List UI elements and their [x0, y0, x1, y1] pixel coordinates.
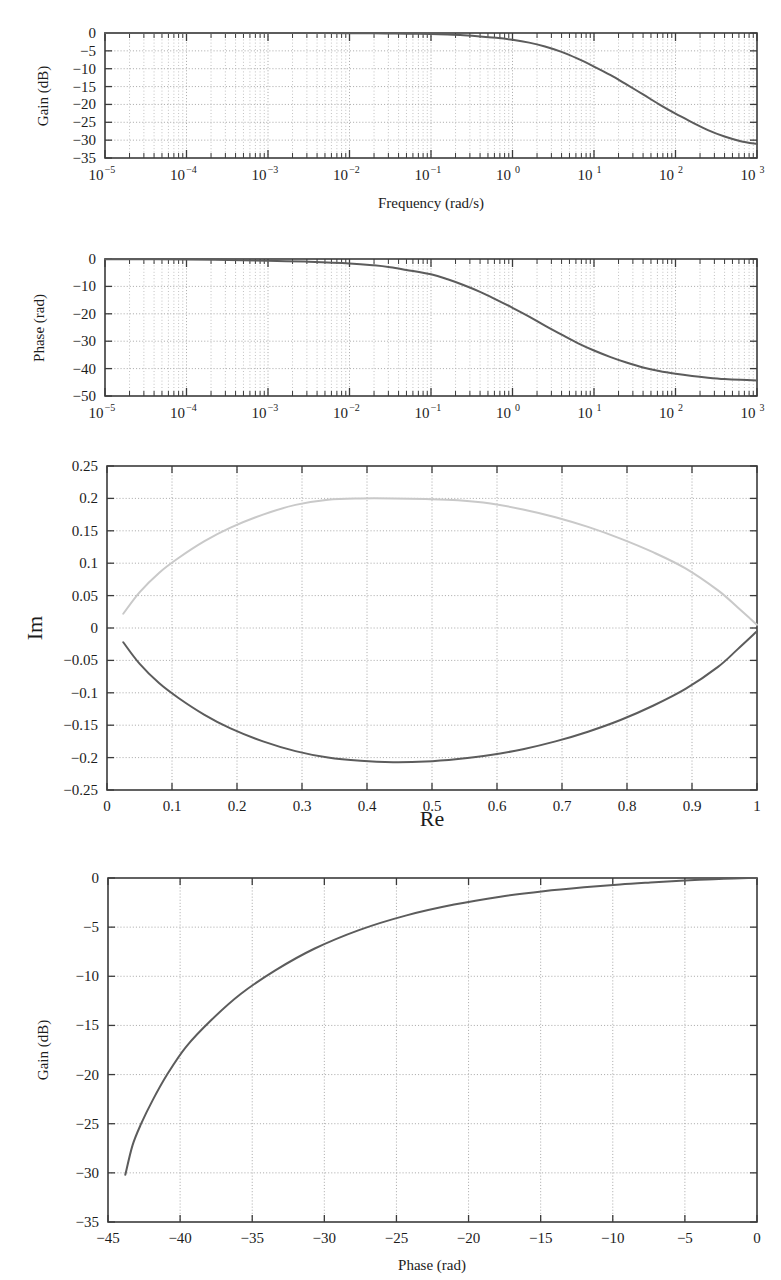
x-tick-exponent: −1	[431, 164, 442, 175]
y-tick-label: 0.25	[72, 458, 98, 474]
y-tick-label: −0.15	[63, 717, 98, 733]
x-tick-mantissa: 10	[578, 405, 593, 421]
nyquist-ytick-labels: 0.250.20.150.10.050−0.05−0.1−0.15−0.2−0.…	[63, 458, 98, 798]
x-tick-mantissa: 10	[89, 167, 104, 183]
panel-bode-magnitude: 0−5−10−15−20−25−30−35 10−510−410−310−210…	[0, 0, 781, 232]
y-tick-label: 0.2	[79, 490, 98, 506]
x-tick-label: 103	[741, 402, 765, 421]
y-tick-label: −20	[76, 1067, 99, 1083]
x-tick-label: 0.8	[618, 798, 637, 814]
x-tick-label: 10−3	[252, 402, 279, 421]
x-tick-mantissa: 10	[415, 405, 430, 421]
x-tick-label: 0.4	[358, 798, 377, 814]
nyquist-grid	[107, 466, 757, 790]
x-tick-exponent: 1	[597, 164, 602, 175]
x-tick-label: 0.2	[228, 798, 247, 814]
bode-phase-ytick-labels: 0−10−20−30−40−50	[73, 251, 96, 404]
x-tick-label: 0.3	[293, 798, 312, 814]
bode-phase-xtick-labels: 10−510−410−310−210−1100101102103	[89, 402, 765, 421]
y-tick-label: 0.15	[72, 523, 98, 539]
nyquist-upper-mirror-curve	[123, 498, 757, 624]
y-tick-label: −25	[76, 1116, 99, 1132]
panel-nyquist: 0.250.20.150.10.050−0.05−0.1−0.15−0.2−0.…	[0, 444, 781, 830]
y-tick-label: −5	[80, 43, 96, 59]
x-tick-label: 10−2	[333, 402, 360, 421]
nyquist-ylabel: Im	[22, 616, 47, 640]
y-tick-label: −30	[76, 1165, 99, 1181]
bode-phase-ylabel: Phase (rad)	[31, 294, 48, 362]
x-tick-label: 0.7	[553, 798, 572, 814]
x-tick-mantissa: 10	[170, 167, 185, 183]
x-tick-label: 10−2	[333, 164, 360, 183]
y-tick-label: −15	[73, 79, 96, 95]
nichols-svg: 0−5−10−15−20−25−30−35 −45−40−35−30−25−20…	[0, 830, 781, 1280]
x-tick-mantissa: 10	[333, 167, 348, 183]
x-tick-label: −5	[677, 1230, 693, 1246]
x-tick-exponent: 0	[515, 164, 520, 175]
y-tick-label: −10	[73, 61, 96, 77]
bode-magnitude-ylabel: Gain (dB)	[35, 66, 52, 126]
x-tick-exponent: 3	[760, 402, 765, 413]
y-tick-label: 0	[92, 870, 100, 886]
y-tick-label: −0.1	[71, 685, 98, 701]
y-tick-label: −0.25	[63, 782, 98, 798]
x-tick-mantissa: 10	[659, 167, 674, 183]
y-tick-label: −20	[73, 306, 96, 322]
x-tick-exponent: 1	[597, 402, 602, 413]
nichols-curve	[125, 878, 756, 1175]
x-tick-label: 10−5	[89, 402, 116, 421]
x-tick-label: 102	[659, 402, 683, 421]
y-tick-label: 0	[89, 25, 97, 41]
panel-bode-phase: 0−10−20−30−40−50 10−510−410−310−210−1100…	[0, 232, 781, 444]
x-tick-mantissa: 10	[741, 405, 756, 421]
y-tick-label: −30	[73, 333, 96, 349]
x-tick-label: 1	[753, 798, 761, 814]
y-tick-label: −10	[76, 968, 99, 984]
x-tick-label: −15	[529, 1230, 552, 1246]
x-tick-label: −45	[96, 1230, 119, 1246]
x-tick-label: 0.1	[163, 798, 182, 814]
x-tick-label: 100	[496, 402, 520, 421]
y-tick-label: −35	[73, 150, 96, 166]
nyquist-xlabel: Re	[420, 806, 444, 831]
x-tick-label: −25	[385, 1230, 408, 1246]
x-tick-label: 10−1	[415, 164, 442, 183]
x-tick-label: 10−3	[252, 164, 279, 183]
nyquist-lower-curve	[123, 631, 757, 762]
x-tick-mantissa: 10	[741, 167, 756, 183]
x-tick-label: −40	[168, 1230, 191, 1246]
x-tick-mantissa: 10	[252, 405, 267, 421]
nichols-xtick-labels: −45−40−35−30−25−20−15−10−50	[96, 1230, 760, 1246]
x-tick-mantissa: 10	[578, 167, 593, 183]
y-tick-label: −5	[83, 919, 99, 935]
bode-magnitude-curve	[105, 33, 757, 144]
y-tick-label: −40	[73, 361, 96, 377]
bode-phase-grid	[105, 259, 757, 396]
y-tick-label: −25	[73, 114, 96, 130]
y-tick-label: −0.05	[63, 652, 98, 668]
x-tick-exponent: −5	[105, 164, 116, 175]
x-tick-mantissa: 10	[659, 405, 674, 421]
y-tick-label: −10	[73, 278, 96, 294]
x-tick-exponent: 2	[678, 402, 683, 413]
x-tick-exponent: 0	[515, 402, 520, 413]
bode-magnitude-xtick-labels: 10−510−410−310−210−1100101102103	[89, 164, 765, 183]
x-tick-exponent: 2	[678, 164, 683, 175]
bode-magnitude-ytick-labels: 0−5−10−15−20−25−30−35	[73, 25, 96, 166]
y-tick-label: −35	[76, 1214, 99, 1230]
nichols-ylabel: Gain (dB)	[35, 1020, 52, 1080]
x-tick-label: 101	[578, 164, 602, 183]
y-tick-label: 0	[89, 251, 97, 267]
nyquist-svg: 0.250.20.150.10.050−0.05−0.1−0.15−0.2−0.…	[0, 444, 781, 830]
bode-magnitude-svg: 0−5−10−15−20−25−30−35 10−510−410−310−210…	[0, 0, 781, 232]
bode-phase-svg: 0−10−20−30−40−50 10−510−410−310−210−1100…	[0, 232, 781, 444]
bode-magnitude-grid	[105, 33, 757, 158]
x-tick-label: −20	[457, 1230, 480, 1246]
nichols-axes-frame	[108, 878, 757, 1222]
y-tick-label: 0	[91, 620, 99, 636]
x-tick-label: 0	[103, 798, 111, 814]
x-tick-label: 100	[496, 164, 520, 183]
x-tick-exponent: −4	[186, 164, 197, 175]
frequency-response-figure: 0−5−10−15−20−25−30−35 10−510−410−310−210…	[0, 0, 781, 1280]
x-tick-mantissa: 10	[415, 167, 430, 183]
